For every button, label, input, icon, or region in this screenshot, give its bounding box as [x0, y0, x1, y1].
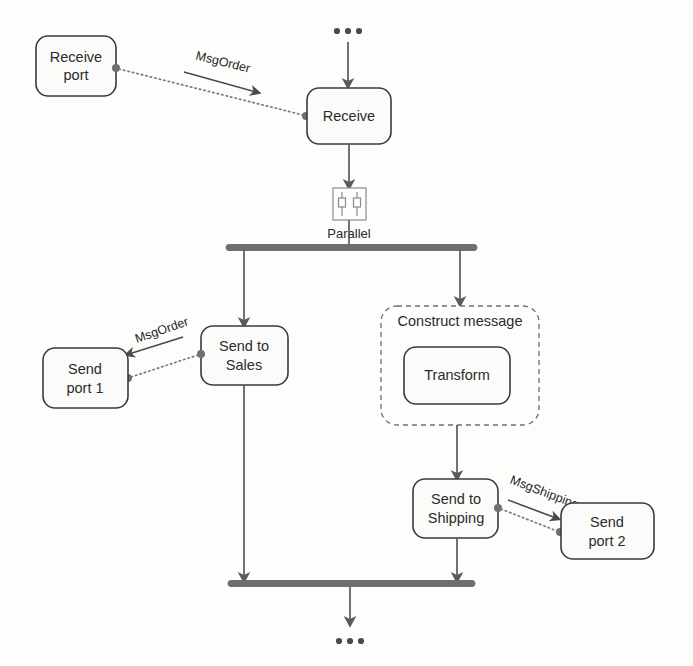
message-line-msgshipping — [501, 509, 557, 531]
node-send-port-1-label-1: Send — [68, 361, 102, 377]
node-receive[interactable]: Receive — [307, 88, 391, 144]
node-receive-port[interactable]: Receive port — [36, 36, 116, 96]
node-send-port-1-label-2: port 1 — [66, 380, 103, 396]
parallel-join-bar — [228, 581, 475, 587]
node-send-to-sales-label-2: Sales — [226, 357, 262, 373]
send-to-shipping-connector-dot — [494, 504, 502, 512]
message-line-msgorder-sales — [131, 355, 198, 377]
node-send-to-shipping-label-1: Send to — [431, 491, 481, 507]
group-construct-message-label: Construct message — [398, 313, 523, 329]
message-line-msgorder-top — [119, 69, 303, 115]
node-send-to-shipping-label-2: Shipping — [428, 510, 484, 526]
node-send-port-2-label-1: Send — [590, 514, 624, 530]
message-msgorder-top: MsgOrder — [184, 49, 256, 92]
node-transform-label: Transform — [424, 367, 490, 383]
node-send-port-2[interactable]: Send port 2 — [561, 503, 654, 559]
parallel-fork-bar — [226, 245, 477, 251]
parallel-shape-icon[interactable] — [333, 188, 366, 220]
orchestration-diagram-canvas: Receive port MsgOrder Receive Paralle — [0, 0, 693, 666]
bottom-continuation-ellipsis — [336, 638, 364, 644]
send-to-sales-connector-dot — [197, 350, 205, 358]
message-msgorder-sales-label: MsgOrder — [133, 315, 190, 346]
node-send-to-sales[interactable]: Send to Sales — [201, 326, 288, 385]
message-msgorder-sales: MsgOrder — [129, 315, 190, 354]
receive-port-connector-dot — [112, 64, 120, 72]
node-send-to-sales-label-1: Send to — [219, 338, 269, 354]
node-send-port-2-label-2: port 2 — [588, 533, 625, 549]
orchestration-diagram: Receive port MsgOrder Receive Paralle — [0, 0, 693, 666]
node-receive-port-label-1: Receive — [50, 49, 102, 65]
node-send-to-shipping[interactable]: Send to Shipping — [413, 479, 498, 538]
node-transform[interactable]: Transform — [404, 347, 510, 404]
node-receive-port-label-2: port — [64, 67, 89, 83]
node-receive-label: Receive — [323, 108, 375, 124]
top-continuation-ellipsis — [334, 28, 362, 34]
node-send-port-1[interactable]: Send port 1 — [43, 348, 128, 408]
message-msgorder-top-label: MsgOrder — [194, 49, 251, 76]
